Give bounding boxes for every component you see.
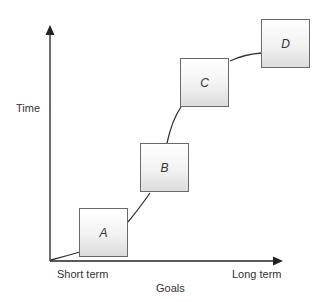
x-axis-end-label: Long term — [232, 268, 282, 280]
x-axis-label: Goals — [156, 282, 185, 294]
goal-box-b: B — [140, 143, 189, 192]
x-axis-arrow-icon — [273, 257, 283, 266]
goal-box-a: A — [79, 208, 128, 257]
y-axis-arrow-icon — [46, 25, 55, 35]
y-axis-label: Time — [16, 102, 40, 114]
x-axis-start-label: Short term — [57, 268, 108, 280]
goal-box-c: C — [180, 58, 229, 107]
curve-origin-a — [51, 252, 80, 260]
curve-b-c — [167, 107, 181, 143]
goal-box-d: D — [261, 19, 310, 68]
curve-c-d — [230, 53, 262, 61]
curve-a-b — [128, 193, 150, 222]
